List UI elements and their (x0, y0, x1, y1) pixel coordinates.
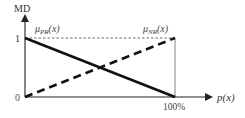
membership-diagram: MD 1 0 100% p(x) μPR(x) μNR(x) (0, 0, 245, 118)
y-axis-label: MD (14, 3, 30, 14)
x-tick-100-percent: 100% (163, 102, 185, 112)
y-tick-1: 1 (15, 33, 20, 44)
mu-pr-label: μPR(x) (34, 23, 60, 36)
y-tick-0: 0 (15, 92, 20, 103)
mu-pr-label-arg: (x) (49, 23, 61, 35)
mu-nr-label-arg: (x) (157, 23, 169, 35)
x-axis-label: p(x) (216, 91, 235, 104)
mu-nr-label: μNR(x) (142, 23, 169, 36)
